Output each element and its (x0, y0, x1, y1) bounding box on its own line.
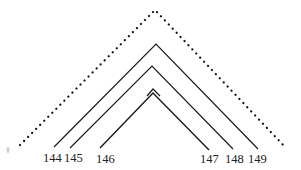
label-148: 148 (225, 152, 244, 166)
arc-146-147-hook (147, 89, 160, 96)
label-144: 144 (43, 151, 63, 165)
dotted-arc (20, 10, 286, 148)
arc-145-148 (70, 66, 233, 149)
label-147: 147 (200, 152, 219, 166)
label-146: 146 (96, 152, 115, 166)
label-149: 149 (248, 152, 267, 166)
arc-diagram: 144 145 146 147 148 149 (0, 0, 301, 170)
smudge-mark (7, 147, 10, 153)
label-145: 145 (64, 151, 83, 165)
